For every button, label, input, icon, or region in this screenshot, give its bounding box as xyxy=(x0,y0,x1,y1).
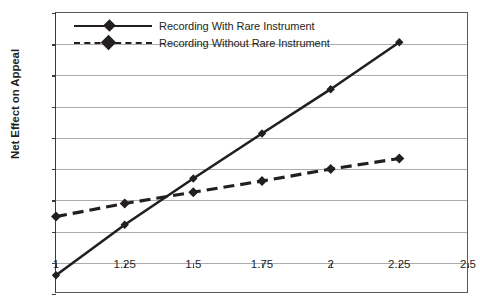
legend-label: Recording With Rare Instrument xyxy=(159,20,315,32)
x-tick-label: 1 xyxy=(36,258,76,270)
x-tick-label: 2.25 xyxy=(379,258,419,270)
legend-item-with-rare-instrument: Recording With Rare Instrument xyxy=(74,18,330,34)
legend-item-without-rare-instrument: Recording Without Rare Instrument xyxy=(74,35,330,51)
series-plot xyxy=(56,13,468,294)
y-tick-mark xyxy=(52,294,56,295)
series-line xyxy=(56,159,399,217)
data-point-marker xyxy=(394,154,404,164)
y-axis-title: Net Effect on Appeal xyxy=(9,34,27,174)
line-chart: Net Effect on Appeal Recording With Rare… xyxy=(0,0,480,306)
chart-legend: Recording With Rare Instrument Recording… xyxy=(74,16,330,54)
data-point-marker xyxy=(326,164,336,174)
x-tick-label: 1.75 xyxy=(242,258,282,270)
legend-swatch-solid xyxy=(74,19,152,33)
x-tick-label: 1.25 xyxy=(105,258,145,270)
diamond-marker-icon xyxy=(101,35,117,51)
plot-area: Recording With Rare Instrument Recording… xyxy=(56,12,468,293)
x-tick-label: 2 xyxy=(311,258,351,270)
series-line xyxy=(56,42,399,275)
x-tick-label: 2.5 xyxy=(448,258,480,270)
data-point-marker xyxy=(257,176,267,186)
data-point-marker xyxy=(188,187,198,197)
legend-swatch-dashed xyxy=(74,36,152,50)
legend-label: Recording Without Rare Instrument xyxy=(159,37,330,49)
x-tick-label: 1.5 xyxy=(173,258,213,270)
data-point-marker xyxy=(51,212,61,222)
diamond-marker-icon xyxy=(103,19,116,32)
data-point-marker xyxy=(120,199,130,209)
